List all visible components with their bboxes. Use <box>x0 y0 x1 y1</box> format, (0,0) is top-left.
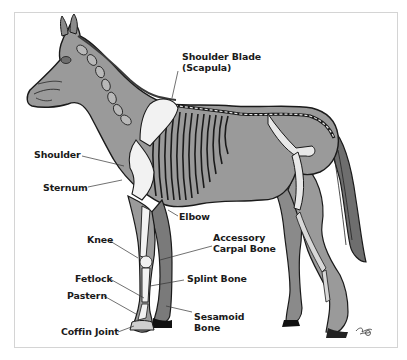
label-shoulder-blade-line1: Shoulder Blade <box>182 51 261 62</box>
label-accessory-carpal-bone: Accessory Carpal Bone <box>213 232 276 254</box>
label-accessory-carpal-line2: Carpal Bone <box>213 243 276 254</box>
label-fetlock: Fetlock <box>75 273 113 284</box>
label-sternum: Sternum <box>43 182 88 193</box>
label-sesamoid-line2: Bone <box>194 322 244 333</box>
label-sesamoid-bone: Sesamoid Bone <box>194 311 244 333</box>
artist-signature-icon <box>356 328 372 335</box>
label-accessory-carpal-line1: Accessory <box>213 232 276 243</box>
label-sesamoid-line1: Sesamoid <box>194 311 244 322</box>
knee-joint <box>140 256 152 268</box>
label-elbow: Elbow <box>179 211 210 222</box>
label-pastern: Pastern <box>67 290 107 301</box>
hoof <box>130 321 154 331</box>
label-shoulder: Shoulder <box>34 149 81 160</box>
label-shoulder-blade: Shoulder Blade (Scapula) <box>182 51 261 73</box>
label-shoulder-blade-line2: (Scapula) <box>182 62 261 73</box>
ear <box>61 16 69 36</box>
label-knee: Knee <box>87 234 113 245</box>
label-coffin-joint: Coffin Joint <box>61 326 119 337</box>
label-splint-bone: Splint Bone <box>187 273 247 284</box>
